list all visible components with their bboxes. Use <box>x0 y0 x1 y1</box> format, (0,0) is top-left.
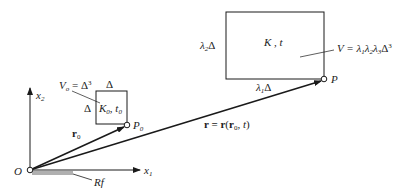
p0-point <box>124 122 130 128</box>
current-volume-leader <box>300 50 334 57</box>
initial-left-side-label: Δ <box>84 102 91 114</box>
current-volume-label: V = λ1λ2λ3Δ3 <box>337 42 392 56</box>
x1-axis-label: x1 <box>143 164 152 178</box>
rf-label: Rf <box>93 176 106 188</box>
r-label: r = r(r0, t) <box>204 118 250 132</box>
reference-frame-bar <box>32 171 73 175</box>
current-left-side-label: λ2Δ <box>199 39 215 53</box>
rf-leader-line <box>73 174 92 180</box>
current-config-label: K , t <box>263 36 284 48</box>
kinematics-diagram: Rf x2 x1 O K0, t0 Δ Δ Vo = Δ3 K , t λ2Δ … <box>0 0 409 193</box>
p-label: P <box>330 73 338 85</box>
origin-label: O <box>14 165 22 177</box>
p-point <box>321 76 327 82</box>
initial-config-label: K0, t0 <box>98 102 122 116</box>
p0-label: P0 <box>132 119 144 133</box>
initial-top-side-label: Δ <box>106 78 113 90</box>
r0-label: r0 <box>72 127 81 141</box>
origin-point <box>27 167 33 173</box>
current-bottom-side-label: λ1Δ <box>255 81 271 95</box>
r-vector <box>30 81 321 170</box>
initial-volume-label: Vo = Δ3 <box>59 79 92 93</box>
x2-axis-label: x2 <box>35 89 45 103</box>
